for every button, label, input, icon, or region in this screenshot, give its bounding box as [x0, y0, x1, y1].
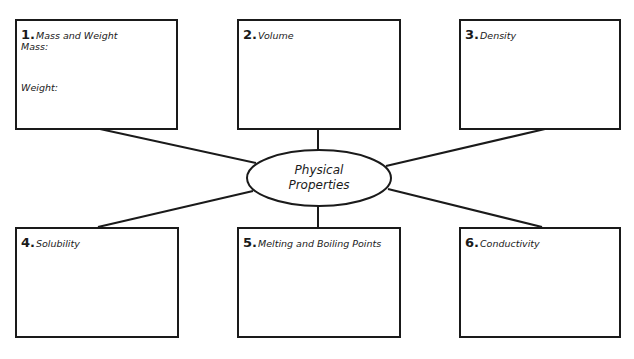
- center-label-line1: Physical: [295, 163, 344, 178]
- box-number: 5.: [243, 235, 257, 250]
- box-label: Melting and Boiling Points: [258, 238, 381, 249]
- box-number: 6.: [465, 235, 479, 250]
- connector-box6: [388, 189, 542, 227]
- box-number: 4.: [21, 235, 35, 250]
- box-label: Conductivity: [480, 238, 540, 249]
- connector-box3: [386, 129, 545, 166]
- box-melting-and-boiling-points[interactable]: 5.Melting and Boiling Points: [237, 227, 401, 338]
- box-density[interactable]: 3.Density: [459, 19, 621, 130]
- connector-box4: [98, 191, 253, 227]
- box-mass-and-weight[interactable]: 1.Mass and Weight Mass: Weight:: [15, 19, 178, 130]
- box-label: Density: [480, 30, 516, 41]
- box-solubility[interactable]: 4.Solubility: [15, 227, 179, 338]
- box-number: 2.: [243, 27, 257, 42]
- center-node: Physical Properties: [247, 150, 391, 206]
- box-label: Mass and Weight: [36, 30, 117, 41]
- box-volume[interactable]: 2.Volume: [237, 19, 401, 130]
- box-label: Solubility: [36, 238, 80, 249]
- connector-box1: [100, 129, 256, 163]
- weight-field-label: Weight:: [21, 82, 58, 93]
- box-label: Volume: [258, 30, 294, 41]
- center-label-line2: Properties: [288, 178, 349, 193]
- box-number: 3.: [465, 27, 479, 42]
- box-number: 1.: [21, 27, 35, 42]
- mass-field-label: Mass:: [21, 41, 48, 52]
- box-conductivity[interactable]: 6.Conductivity: [459, 227, 621, 338]
